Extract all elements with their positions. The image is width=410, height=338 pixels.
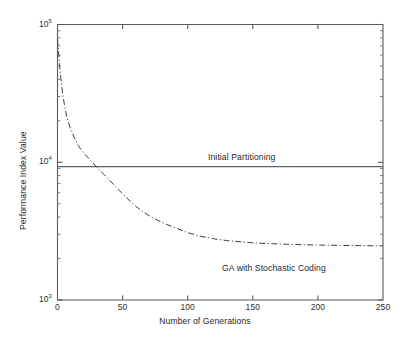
x-tick-label: 100	[180, 302, 194, 312]
plot-canvas	[0, 0, 410, 338]
y-tick-label: 105	[39, 19, 52, 29]
axes-frame	[58, 25, 384, 301]
y-tick-exponent: 3	[49, 293, 52, 299]
y-tick-label: 104	[39, 156, 52, 166]
annotation-ga-stochastic-coding: GA with Stochastic Coding	[222, 263, 326, 273]
annotation-initial-partitioning: Initial Partitioning	[208, 152, 275, 162]
y-axis-title: Performance Index Value	[18, 131, 28, 230]
ga-stochastic-coding-line	[58, 39, 384, 246]
x-tick-label: 0	[55, 302, 60, 312]
y-tick-mantissa: 10	[39, 156, 49, 166]
y-tick-exponent: 5	[49, 18, 52, 24]
y-tick-label: 103	[39, 294, 52, 304]
x-tick-label: 150	[246, 302, 260, 312]
y-tick-mantissa: 10	[39, 294, 49, 304]
figure-container: 050100150200250 103104105 Number of Gene…	[0, 0, 410, 338]
x-tick-label: 250	[376, 302, 390, 312]
x-axis-title: Number of Generations	[0, 316, 410, 326]
y-tick-exponent: 4	[49, 155, 52, 161]
x-tick-label: 200	[311, 302, 325, 312]
y-tick-mantissa: 10	[39, 19, 49, 29]
x-tick-label: 50	[118, 302, 128, 312]
axis-ticks	[58, 25, 384, 301]
